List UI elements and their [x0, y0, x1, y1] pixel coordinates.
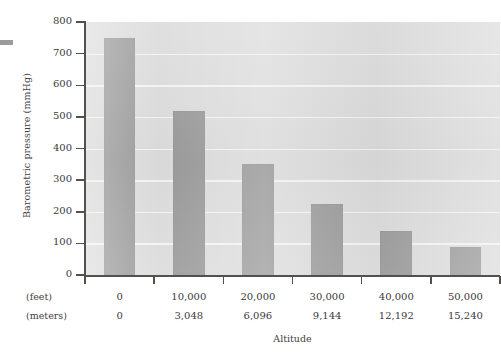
x-label-feet-3: 30,000 [310, 291, 345, 302]
bar-50000 [450, 247, 482, 276]
y-tick-label-700: 700 [24, 47, 72, 58]
x-label-feet-5: 50,000 [448, 291, 483, 302]
x-tick-mark-5 [430, 276, 432, 284]
y-tick-label-400: 400 [24, 142, 72, 153]
x-tick-mark-3 [292, 276, 294, 284]
gridline-200 [85, 212, 500, 214]
x-label-meters-3: 9,144 [313, 310, 342, 321]
x-axis-title: Altitude [85, 333, 500, 344]
y-tick-label-500: 500 [24, 110, 72, 121]
x-label-meters-0: 0 [116, 310, 122, 321]
bar-0 [104, 38, 136, 275]
x-tick-mark-1 [153, 276, 155, 284]
y-tick-mark-300 [76, 179, 84, 181]
y-tick-mark-200 [76, 211, 84, 213]
x-label-meters-4: 12,192 [379, 310, 414, 321]
y-tick-label-300: 300 [24, 173, 72, 184]
gridline-500 [85, 117, 500, 119]
x-label-meters-5: 15,240 [448, 310, 483, 321]
x-axis-row-label-meters: (meters) [26, 310, 98, 321]
gridline-700 [85, 54, 500, 56]
y-tick-mark-0 [76, 274, 84, 276]
x-label-feet-0: 0 [116, 291, 122, 302]
gridline-300 [85, 180, 500, 182]
x-axis-row-label-feet: (feet) [26, 291, 98, 302]
y-tick-label-100: 100 [24, 236, 72, 247]
bar-20000 [242, 164, 274, 275]
y-tick-mark-700 [76, 53, 84, 55]
y-tick-mark-100 [76, 243, 84, 245]
y-tick-mark-800 [76, 21, 84, 23]
x-tick-mark-4 [361, 276, 363, 284]
x-label-meters-2: 6,096 [244, 310, 273, 321]
y-tick-mark-500 [76, 116, 84, 118]
bar-10000 [173, 111, 205, 275]
y-axis-line [84, 21, 86, 276]
gridline-400 [85, 149, 500, 151]
x-tick-mark-0 [84, 276, 86, 284]
x-label-feet-2: 20,000 [240, 291, 275, 302]
y-tick-mark-400 [76, 148, 84, 150]
gridline-600 [85, 85, 500, 87]
x-label-feet-4: 40,000 [379, 291, 414, 302]
plot-area [85, 22, 500, 275]
gridline-100 [85, 243, 500, 245]
x-label-feet-1: 10,000 [171, 291, 206, 302]
x-label-meters-1: 3,048 [174, 310, 203, 321]
y-tick-label-600: 600 [24, 78, 72, 89]
x-tick-mark-2 [223, 276, 225, 284]
bar-40000 [380, 231, 412, 275]
y-tick-label-800: 800 [24, 15, 72, 26]
y-tick-label-200: 200 [24, 205, 72, 216]
bar-30000 [311, 204, 343, 275]
y-tick-mark-600 [76, 85, 84, 87]
y-tick-label-0: 0 [24, 268, 72, 279]
